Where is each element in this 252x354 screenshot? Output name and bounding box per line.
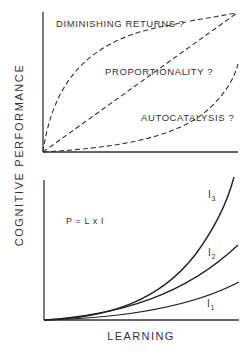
label-proportionality: PROPORTIONALITY ? <box>105 66 213 77</box>
x-axis-label: LEARNING <box>107 330 174 342</box>
curve-proportionality <box>43 13 237 152</box>
label-autocatalysis: AUTOCATALYSIS ? <box>141 112 234 123</box>
curve-autocatalysis <box>43 64 238 152</box>
label-diminishing-returns: DIMINISHING RETURNS ? <box>56 18 185 29</box>
equation-label: P = L x I <box>66 216 104 226</box>
top-panel: DIMINISHING RETURNS ? PROPORTIONALITY ? … <box>43 12 238 152</box>
diagram-canvas: DIMINISHING RETURNS ? PROPORTIONALITY ? … <box>0 0 252 354</box>
bottom-panel: P = L x I I3 I2 I1 <box>44 177 239 320</box>
label-i1: I1 <box>207 298 215 311</box>
y-axis-label: COGNITIVE PERFORMANCE <box>13 64 25 247</box>
curve-i3 <box>44 177 234 320</box>
label-i2: I2 <box>208 247 216 260</box>
label-i3: I3 <box>208 189 216 202</box>
